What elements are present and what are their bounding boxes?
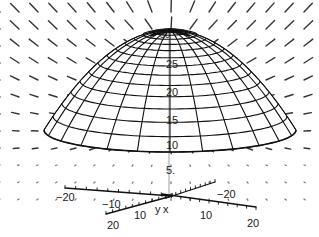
z-tick-10: 10: [166, 140, 178, 151]
axis-tick-neg20-left: −20: [56, 192, 75, 203]
z-tick-15: 15: [166, 115, 178, 126]
axis-tick-neg10: −10: [102, 199, 121, 210]
axis-tick-neg20-right: −20: [217, 189, 236, 200]
z-tick-20: 20: [166, 87, 178, 98]
z-tick-30: 30: [160, 31, 170, 40]
axis-tick-pos20-right: 20: [247, 218, 259, 229]
z-tick-5: 5.: [166, 165, 175, 176]
axis-tick-pos20-left: 20: [107, 220, 119, 231]
z-tick-25: 25: [166, 59, 178, 70]
x-axis-label: x: [163, 204, 169, 215]
axis-tick-pos10-right: 10: [200, 210, 212, 221]
y-axis-label: y: [155, 204, 161, 215]
axis-tick-pos10-left: 10: [134, 210, 146, 221]
vector-field-dome-plot: 30 25 20 15 10 5. −20 −10 y x 10 20 −20 …: [0, 0, 319, 237]
